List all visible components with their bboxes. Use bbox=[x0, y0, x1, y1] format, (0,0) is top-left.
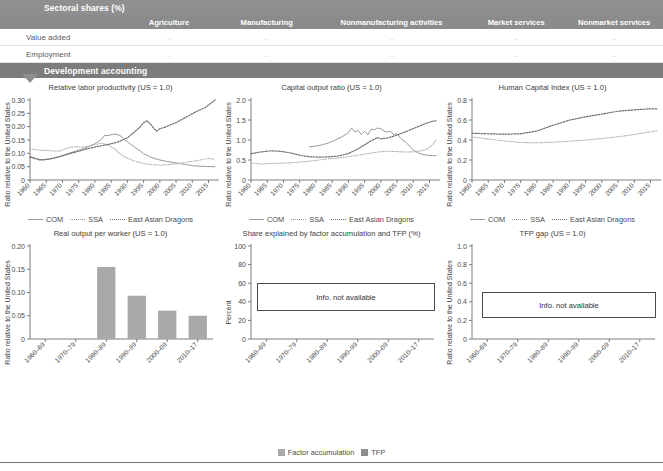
svg-text:1960: 1960 bbox=[457, 182, 473, 198]
chart-title: Share explained by factor accumulation a… bbox=[221, 229, 442, 239]
svg-text:2010: 2010 bbox=[399, 182, 415, 198]
svg-text:1990–99: 1990–99 bbox=[114, 341, 137, 364]
svg-text:1960: 1960 bbox=[15, 182, 31, 198]
column-header-nonmarket-services: Nonmarket services bbox=[565, 18, 663, 27]
legend-item-ssa: SSA bbox=[291, 215, 324, 224]
svg-text:1985: 1985 bbox=[539, 182, 555, 198]
legend-label-com: COM bbox=[488, 215, 505, 224]
legend-item-dragons: East Asian Dragons bbox=[110, 215, 193, 224]
chart-legend: COM SSA East Asian Dragons bbox=[0, 215, 221, 224]
svg-text:2010: 2010 bbox=[178, 182, 194, 198]
chart-canvas: 00.050.100.150.201960–691970–791980–8919… bbox=[0, 240, 221, 385]
svg-text:0.15: 0.15 bbox=[11, 137, 25, 144]
svg-text:2015: 2015 bbox=[636, 182, 652, 198]
row-label-employment: Employment bbox=[0, 50, 120, 59]
legend-label-ssa: SSA bbox=[309, 215, 324, 224]
legend-label-dragons: East Asian Dragons bbox=[349, 215, 414, 224]
legend-item-dragons: East Asian Dragons bbox=[331, 215, 414, 224]
svg-text:100: 100 bbox=[234, 243, 246, 250]
chart-canvas: 00.51.01.52.0196019651970197519801985199… bbox=[221, 94, 442, 214]
cell-value-added-market-services: .. bbox=[467, 33, 565, 42]
chart-row-top: Relative labor productivity (US = 1.0) R… bbox=[0, 78, 663, 224]
legend-item-tfp: TFP bbox=[361, 448, 385, 457]
table-row: Value added .. .. .. .. .. bbox=[0, 29, 663, 46]
chart-real-output-per-worker: Real output per worker (US = 1.0) Ratio … bbox=[0, 224, 221, 385]
svg-text:2005: 2005 bbox=[382, 182, 398, 198]
column-header-manufacturing: Manufacturing bbox=[218, 18, 316, 27]
svg-text:1990–99: 1990–99 bbox=[556, 341, 579, 364]
svg-text:1970: 1970 bbox=[48, 182, 64, 198]
sectoral-shares-band: Sectoral shares (%) bbox=[0, 0, 663, 15]
sectoral-shares-header-row: Agriculture Manufacturing Nonmanufacturi… bbox=[0, 15, 663, 29]
chart-capital-output-ratio: Capital output ratio (US = 1.0) Ratio re… bbox=[221, 78, 442, 224]
y-axis-label: Percent bbox=[222, 240, 234, 385]
svg-text:1960–69: 1960–69 bbox=[244, 341, 267, 364]
svg-text:1975: 1975 bbox=[285, 182, 301, 198]
svg-text:0.8: 0.8 bbox=[457, 97, 467, 104]
svg-text:1.0: 1.0 bbox=[457, 243, 467, 250]
svg-text:0.30: 0.30 bbox=[11, 97, 25, 104]
chart-canvas: 00.050.100.150.200.250.30196019651970197… bbox=[0, 94, 221, 214]
svg-text:2005: 2005 bbox=[161, 182, 177, 198]
legend-label-com: COM bbox=[46, 215, 63, 224]
cell-value-added-manufacturing: .. bbox=[218, 33, 316, 42]
svg-text:0.6: 0.6 bbox=[457, 280, 467, 287]
svg-text:0.05: 0.05 bbox=[11, 312, 25, 319]
row-label-value-added: Value added bbox=[0, 33, 120, 42]
cell-employment-nonmanufacturing: .. bbox=[316, 50, 468, 59]
chart-canvas: 00.20.40.60.8196019651970197519801985199… bbox=[442, 94, 663, 214]
svg-text:1990: 1990 bbox=[113, 182, 129, 198]
svg-text:2000–09: 2000–09 bbox=[587, 341, 610, 364]
y-axis-label: Ratio relative to the United States bbox=[1, 240, 13, 385]
chart-row-bottom: Real output per worker (US = 1.0) Ratio … bbox=[0, 224, 663, 385]
chart-legend: COM SSA East Asian Dragons bbox=[442, 215, 663, 224]
svg-text:2000–09: 2000–09 bbox=[366, 341, 389, 364]
svg-text:1970–79: 1970–79 bbox=[274, 341, 297, 364]
svg-text:1.0: 1.0 bbox=[236, 137, 246, 144]
chart-canvas: 0204060801001960–691970–791980–891990–99… bbox=[221, 240, 442, 385]
svg-text:0.20: 0.20 bbox=[11, 243, 25, 250]
legend-item-ssa: SSA bbox=[70, 215, 103, 224]
y-axis-label: Ratio relative to the United States bbox=[1, 94, 13, 214]
svg-text:2010–17: 2010–17 bbox=[617, 341, 640, 364]
svg-text:1970–79: 1970–79 bbox=[53, 341, 76, 364]
svg-text:0.4: 0.4 bbox=[457, 137, 467, 144]
legend-swatch-solid bbox=[470, 219, 485, 220]
svg-text:1975: 1975 bbox=[506, 182, 522, 198]
svg-text:1970–79: 1970–79 bbox=[495, 341, 518, 364]
chart-tfp-gap: TFP gap (US = 1.0) Ratio relative to the… bbox=[442, 224, 663, 385]
svg-text:1990: 1990 bbox=[334, 182, 350, 198]
legend-label-dragons: East Asian Dragons bbox=[570, 215, 635, 224]
svg-text:1980: 1980 bbox=[522, 182, 538, 198]
y-axis-label: Ratio relative to the United States bbox=[222, 94, 234, 214]
svg-text:1990: 1990 bbox=[555, 182, 571, 198]
svg-text:0: 0 bbox=[463, 336, 467, 343]
y-axis-label: Ratio relative to the United States bbox=[443, 94, 455, 214]
footer-divider bbox=[0, 462, 663, 463]
cell-employment-nonmarket-services: .. bbox=[565, 50, 663, 59]
svg-text:1965: 1965 bbox=[253, 182, 269, 198]
svg-text:1980–89: 1980–89 bbox=[84, 341, 107, 364]
info-not-available-box: Info. not available bbox=[257, 283, 435, 311]
y-axis-label: Ratio relative to the United States bbox=[443, 240, 455, 385]
svg-text:2010–17: 2010–17 bbox=[396, 341, 419, 364]
cell-value-added-nonmarket-services: .. bbox=[565, 33, 663, 42]
svg-text:2015: 2015 bbox=[194, 182, 210, 198]
svg-text:1960–69: 1960–69 bbox=[23, 341, 46, 364]
cell-value-added-nonmanufacturing: .. bbox=[316, 33, 468, 42]
svg-text:2015: 2015 bbox=[415, 182, 431, 198]
svg-text:1985: 1985 bbox=[318, 182, 334, 198]
svg-text:2.0: 2.0 bbox=[236, 97, 246, 104]
legend-item-dragons: East Asian Dragons bbox=[552, 215, 635, 224]
legend-label-ssa: SSA bbox=[530, 215, 545, 224]
legend-swatch-dotted-light bbox=[70, 219, 85, 220]
legend-swatch-solid bbox=[28, 219, 43, 220]
legend-swatch-solid bbox=[249, 219, 264, 220]
chart-human-capital-index: Human Capital Index (US = 1.0) Ratio rel… bbox=[442, 78, 663, 224]
svg-text:1960–69: 1960–69 bbox=[465, 341, 488, 364]
svg-text:0.5: 0.5 bbox=[236, 157, 246, 164]
chart-legend: COM SSA East Asian Dragons bbox=[221, 215, 442, 224]
chart-title: Capital output ratio (US = 1.0) bbox=[221, 83, 442, 93]
legend-swatch-tfp bbox=[361, 449, 368, 456]
svg-text:1980–89: 1980–89 bbox=[305, 341, 328, 364]
